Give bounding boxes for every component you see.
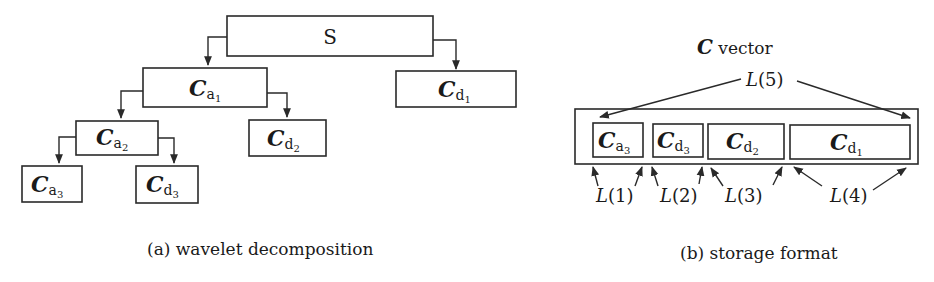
node-ca1: Ca1 xyxy=(143,68,267,107)
svg-text:L(1): L(1) xyxy=(595,185,633,206)
vector-title: C vector xyxy=(697,35,774,59)
edge-ca2-ca3 xyxy=(59,137,76,163)
caption-a: (a) wavelet decomposition xyxy=(147,239,373,259)
node-cd3: Cd3 xyxy=(136,166,198,203)
node-cd2-sym: C xyxy=(267,125,285,151)
svg-text:L(4): L(4) xyxy=(829,185,867,206)
edge-ca2-cd3 xyxy=(158,138,174,163)
node-cd1: Cd1 xyxy=(396,71,516,107)
svg-text:L(5): L(5) xyxy=(745,69,783,90)
segment-cd3: Cd3 xyxy=(653,124,703,157)
caption-b: (b) storage format xyxy=(680,243,838,263)
edge-s-ca1 xyxy=(208,37,227,65)
node-s: S xyxy=(227,16,433,56)
wavelet-figure: S Ca1 Cd1 Ca2 Cd2 xyxy=(0,0,934,282)
node-ca2-sym: C xyxy=(96,124,114,150)
edge-ca1-ca2 xyxy=(121,91,143,118)
node-ca3: Ca3 xyxy=(22,166,82,202)
node-s-label: S xyxy=(323,25,337,49)
segment-cd1: Cd1 xyxy=(790,125,910,159)
node-ca3-sym: C xyxy=(31,171,49,197)
svg-text:L(3): L(3) xyxy=(724,185,762,206)
node-cd3-sym: C xyxy=(146,171,164,197)
panel-b-storage-format: C vector Ca3 Cd3 Cd2 Cd1 xyxy=(575,35,918,263)
svg-text:L(2): L(2) xyxy=(659,185,697,206)
node-ca1-sym: C xyxy=(189,75,207,101)
length-label-l1: L(1) xyxy=(593,167,642,206)
segment-cd2: Cd2 xyxy=(708,124,784,159)
node-cd2: Cd2 xyxy=(249,120,326,156)
panel-a-wavelet-tree: S Ca1 Cd1 Ca2 Cd2 xyxy=(22,16,516,259)
length-label-l2: L(2) xyxy=(652,167,702,206)
length-label-l4: L(4) xyxy=(794,167,906,206)
length-label-l3: L(3) xyxy=(711,167,782,206)
segment-ca3: Ca3 xyxy=(593,123,643,157)
node-cd1-sym: C xyxy=(438,76,456,102)
edge-ca1-cd2 xyxy=(267,93,287,117)
node-ca2: Ca2 xyxy=(76,121,158,155)
edge-s-cd1 xyxy=(433,40,456,69)
